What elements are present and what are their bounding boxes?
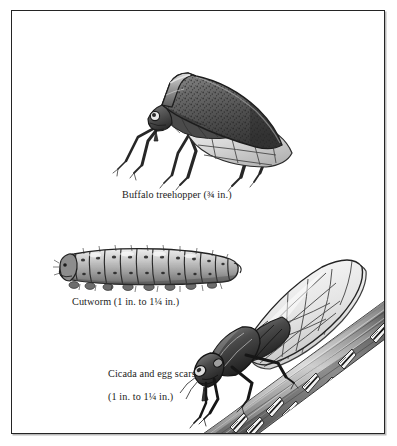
cicada-and-egg-scars-illustration xyxy=(190,259,384,433)
cutworm-head xyxy=(60,254,77,281)
caption-buffalo-treehopper: Buffalo treehopper (¾ in.) xyxy=(122,189,232,201)
caption-cutworm: Cutworm (1 in. to 1¼ in.) xyxy=(72,296,179,308)
caption-cicada-and-egg-scars: Cicada and egg scars (1 in. to 1¼ in.) xyxy=(108,356,196,414)
caption-cicada-line-1: Cicada and egg scars xyxy=(108,368,196,380)
caption-cicada-line-2: (1 in. to 1¼ in.) xyxy=(108,391,196,403)
illustration-plate: Buffalo treehopper (¾ in.) xyxy=(0,0,397,446)
plate-frame: Buffalo treehopper (¾ in.) xyxy=(11,10,385,434)
buffalo-treehopper-illustration xyxy=(100,61,300,189)
plate-frame-inner: Buffalo treehopper (¾ in.) xyxy=(12,11,384,433)
